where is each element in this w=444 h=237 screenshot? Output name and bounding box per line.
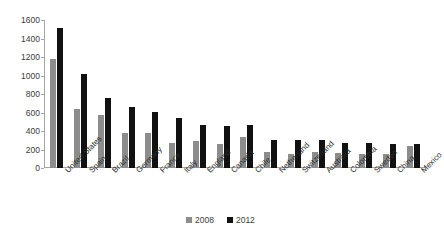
x-axis-category-labels: United StatesSpainBrazilGermanyFranceIta…	[45, 169, 425, 215]
legend-swatch-icon	[186, 217, 192, 223]
y-axis-tick-label: 1400	[0, 34, 40, 43]
x-axis-label: Australia	[325, 169, 331, 175]
y-axis-tick-label: 800	[0, 90, 40, 99]
bar-group	[45, 20, 69, 168]
y-axis-tick-label: 200	[0, 145, 40, 154]
legend-label: 2008	[195, 216, 214, 225]
bar-2008	[50, 59, 56, 168]
x-axis-label: Netherland	[278, 169, 284, 175]
x-axis-label: Colombia	[349, 169, 355, 175]
bar-group	[259, 20, 283, 168]
bar-group	[116, 20, 140, 168]
bar-group	[235, 20, 259, 168]
legend-item[interactable]: 2008	[186, 216, 214, 225]
y-axis-tick-label: 600	[0, 108, 40, 117]
legend-swatch-icon	[227, 217, 233, 223]
bar-groups	[45, 20, 425, 168]
x-axis-label: Brazil	[111, 169, 117, 175]
bar-group	[140, 20, 164, 168]
legend-item[interactable]: 2012	[227, 216, 255, 225]
y-axis-tick-mark	[41, 168, 44, 169]
x-axis-label: China	[396, 169, 402, 175]
x-axis-label: Italy	[183, 169, 189, 175]
x-axis-label: Chile	[254, 169, 260, 175]
bar-group	[211, 20, 235, 168]
bar-2012	[271, 140, 277, 168]
bar-group	[378, 20, 402, 168]
bar-group	[188, 20, 212, 168]
x-axis-label: Sweden	[373, 169, 379, 175]
x-axis-label: France	[159, 169, 165, 175]
y-axis-tick-label: 400	[0, 127, 40, 136]
bar-2012	[200, 125, 206, 168]
x-axis-label: Canada	[230, 169, 236, 175]
legend: 20082012	[186, 216, 255, 225]
y-axis-tick-label: 1000	[0, 71, 40, 80]
y-axis-tick-label: 0	[0, 164, 40, 173]
bar-2012	[414, 144, 420, 168]
y-axis-tick-label: 1600	[0, 16, 40, 25]
x-axis-label: United States	[64, 169, 70, 175]
bar-2012	[57, 28, 63, 168]
x-axis-label: England	[206, 169, 212, 175]
y-axis: 02004006008001000120014001600	[0, 20, 40, 168]
x-axis-label: Switzerland	[301, 169, 307, 175]
x-axis-label: Spain	[88, 169, 94, 175]
legend-label: 2012	[236, 216, 255, 225]
x-axis-label: Germany	[135, 169, 141, 175]
x-axis-label: Mexico	[420, 169, 426, 175]
y-axis-tick-label: 1200	[0, 53, 40, 62]
bar-group	[164, 20, 188, 168]
bar-group	[401, 20, 425, 168]
